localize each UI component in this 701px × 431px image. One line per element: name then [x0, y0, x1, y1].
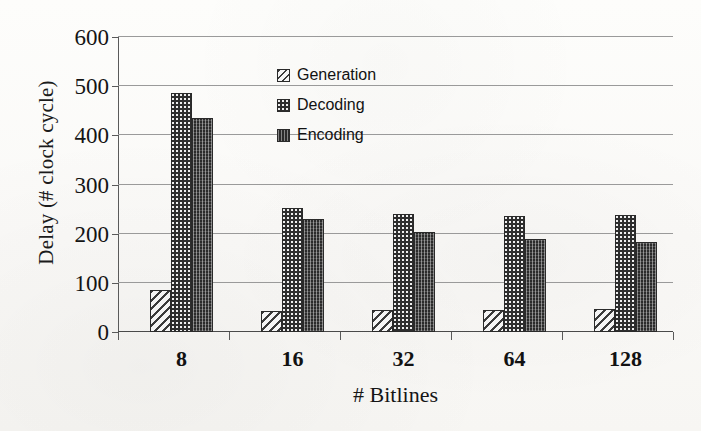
legend-label: Decoding: [297, 97, 365, 113]
legend-swatch-generation-icon: [277, 69, 290, 82]
bar-encoding-16[interactable]: [303, 219, 324, 332]
bar-encoding-32[interactable]: [414, 232, 435, 332]
bar-encoding-128[interactable]: [636, 242, 657, 332]
bar-encoding-8[interactable]: [192, 118, 213, 332]
legend-label: Generation: [297, 67, 376, 83]
bar-decoding-8[interactable]: [171, 93, 192, 332]
x-tick-mark-128: [562, 332, 563, 340]
bar-group-128: [594, 37, 657, 332]
y-tick-label: 500: [75, 75, 110, 98]
chart-legend: GenerationDecodingEncoding: [277, 60, 427, 150]
bar-generation-16[interactable]: [261, 311, 282, 332]
bar-decoding-128[interactable]: [615, 215, 636, 332]
legend-item-generation[interactable]: Generation: [277, 60, 427, 90]
legend-item-encoding[interactable]: Encoding: [277, 120, 427, 150]
legend-item-decoding[interactable]: Decoding: [277, 90, 427, 120]
bar-generation-128[interactable]: [594, 309, 615, 332]
x-tick-mark-16: [229, 332, 230, 340]
x-tick-label-8: 8: [176, 348, 187, 370]
y-axis-title: Delay (# clock cycle): [34, 43, 59, 303]
y-tick-label: 0: [98, 321, 110, 344]
bar-generation-32[interactable]: [372, 310, 393, 332]
chart-figure: Delay (# clock cycle) 010020030040050060…: [0, 0, 701, 431]
x-tick-mark-64: [451, 332, 452, 340]
x-tick-label-64: 64: [504, 348, 526, 370]
y-tick-label: 100: [75, 271, 110, 294]
legend-swatch-decoding-icon: [277, 99, 290, 112]
bar-generation-64[interactable]: [483, 310, 504, 332]
x-tick-label-16: 16: [282, 348, 304, 370]
y-tick-label: 300: [75, 173, 110, 196]
x-tick-label-128: 128: [609, 348, 642, 370]
bar-generation-8[interactable]: [150, 290, 171, 332]
bar-decoding-16[interactable]: [282, 208, 303, 332]
x-tick-mark-8: [118, 332, 119, 340]
x-axis-title: # Bitlines: [118, 382, 673, 408]
bar-decoding-32[interactable]: [393, 214, 414, 332]
y-tick-label: 200: [75, 222, 110, 245]
y-tick-label: 600: [75, 26, 110, 49]
legend-swatch-encoding-icon: [277, 129, 290, 142]
x-tick-mark-end: [673, 332, 674, 340]
legend-label: Encoding: [297, 127, 364, 143]
bar-group-64: [483, 37, 546, 332]
x-tick-label-32: 32: [393, 348, 415, 370]
x-tick-mark-32: [340, 332, 341, 340]
bar-encoding-64[interactable]: [525, 239, 546, 332]
bar-group-8: [150, 37, 213, 332]
y-tick-label: 400: [75, 124, 110, 147]
bar-decoding-64[interactable]: [504, 216, 525, 332]
